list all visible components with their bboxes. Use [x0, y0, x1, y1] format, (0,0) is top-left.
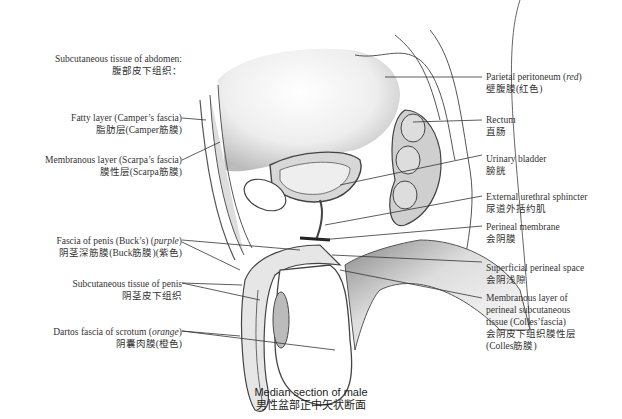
label-en: Dartos fascia of scrotum	[53, 327, 146, 337]
label-zh-line2: (Colles筋膜)	[486, 340, 576, 352]
label-zh: 直肠	[486, 126, 516, 138]
label-en: Parietal peritoneum	[486, 72, 561, 82]
label-en: Membranous layer of	[486, 292, 576, 304]
label-superficial-perineal-space: Superficial perineal space 会阴浅隙	[486, 262, 584, 286]
label-zh: 阴囊肉膜(橙色)	[53, 338, 182, 350]
label-en: Membranous layer (Scarpa’s fascia)	[45, 155, 182, 165]
label-en: External urethral sphincter	[486, 192, 587, 202]
label-zh: 会阴浅隙	[486, 274, 584, 286]
label-en: Perineal membrane	[486, 222, 560, 232]
label-zh: 脂肪层(Camper筋膜)	[71, 124, 182, 136]
label-zh: 腹部皮下组织：	[55, 65, 182, 77]
label-en: Superficial perineal space	[486, 263, 584, 273]
label-perineal-membrane: Perineal membrane 会阴膜	[486, 221, 560, 245]
label-zh: 膜性层(Scarpa筋膜)	[45, 166, 182, 178]
label-subcutaneous-tissue-penis: Subcutaneous tissue of penis 阴茎皮下组织	[72, 278, 182, 302]
label-fascia-of-penis: Fascia of penis (Buck’s) (purple) 阴茎深筋膜(…	[56, 235, 182, 259]
label-color: orange	[152, 327, 179, 337]
label-color: purple	[154, 236, 179, 246]
label-fatty-layer: Fatty layer (Camper’s fascia) 脂肪层(Camper…	[71, 112, 182, 136]
label-zh: 壁腹膜(红色)	[486, 83, 582, 95]
label-zh: 会阴膜	[486, 233, 560, 245]
label-urinary-bladder: Urinary bladder 膀胱	[486, 153, 546, 177]
label-zh: 膀胱	[486, 165, 546, 177]
label-zh: 会阴皮下组织膜性层	[486, 328, 576, 340]
label-external-urethral-sphincter: External urethral sphincter 尿道外括约肌	[486, 191, 587, 215]
label-zh: 阴茎皮下组织	[72, 290, 182, 302]
label-subcutaneous-tissue-abdomen: Subcutaneous tissue of abdomen: 腹部皮下组织：	[55, 53, 182, 77]
label-en: Subcutaneous tissue of abdomen:	[55, 54, 182, 64]
caption-zh: 男性盆部正中矢状断面	[0, 399, 622, 412]
label-colles-fascia: Membranous layer of perineal subcutaneou…	[486, 292, 576, 352]
label-en: Fascia of penis (Buck’s)	[56, 236, 148, 246]
label-color: red	[566, 72, 578, 82]
label-rectum: Rectum 直肠	[486, 114, 516, 138]
label-zh: 尿道外括约肌	[486, 203, 587, 215]
label-en: Rectum	[486, 115, 516, 125]
label-dartos-fascia: Dartos fascia of scrotum (orange) 阴囊肉膜(橙…	[53, 326, 182, 350]
label-en-line3: tissue (Colles’fascia)	[486, 316, 576, 328]
label-en: Urinary bladder	[486, 154, 546, 164]
figure-caption: Median section of male 男性盆部正中矢状断面	[0, 386, 622, 412]
label-en: Fatty layer (Camper’s fascia)	[71, 113, 182, 123]
label-membranous-layer: Membranous layer (Scarpa’s fascia) 膜性层(S…	[45, 154, 182, 178]
label-en-line2: perineal subcutaneous	[486, 304, 576, 316]
caption-en: Median section of male	[0, 386, 622, 399]
label-zh: 阴茎深筋膜(Buck筋膜)(紫色)	[56, 247, 182, 259]
label-en: Subcutaneous tissue of penis	[72, 279, 182, 289]
label-parietal-peritoneum: Parietal peritoneum (red) 壁腹膜(红色)	[486, 71, 582, 95]
